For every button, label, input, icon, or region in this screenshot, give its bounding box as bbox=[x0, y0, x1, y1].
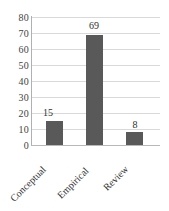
y-tick-label-60: 60 bbox=[3, 45, 29, 55]
x-tick-label-empirical: Empirical bbox=[55, 165, 91, 201]
y-tick-label-30: 30 bbox=[3, 93, 29, 103]
y-tick-label-20: 20 bbox=[3, 109, 29, 119]
y-tick-label-50: 50 bbox=[3, 61, 29, 71]
y-tick-label-70: 70 bbox=[3, 29, 29, 39]
x-tick-label-review: Review bbox=[101, 163, 130, 192]
bar-value-empirical: 69 bbox=[82, 21, 106, 31]
bar-empirical bbox=[86, 35, 103, 145]
bar-value-conceptual: 15 bbox=[36, 108, 60, 118]
bar-review bbox=[126, 132, 143, 145]
bar-conceptual bbox=[46, 121, 63, 145]
x-axis-line bbox=[31, 145, 160, 146]
y-tick-label-80: 80 bbox=[3, 13, 29, 23]
bar-value-review: 8 bbox=[123, 120, 147, 130]
y-tick-label-0: 0 bbox=[3, 141, 29, 151]
y-tick-label-10: 10 bbox=[3, 125, 29, 135]
y-tick-label-40: 40 bbox=[3, 77, 29, 87]
bar-chart: 80 70 60 50 40 30 20 10 0 15 69 8 Concep… bbox=[0, 0, 169, 211]
